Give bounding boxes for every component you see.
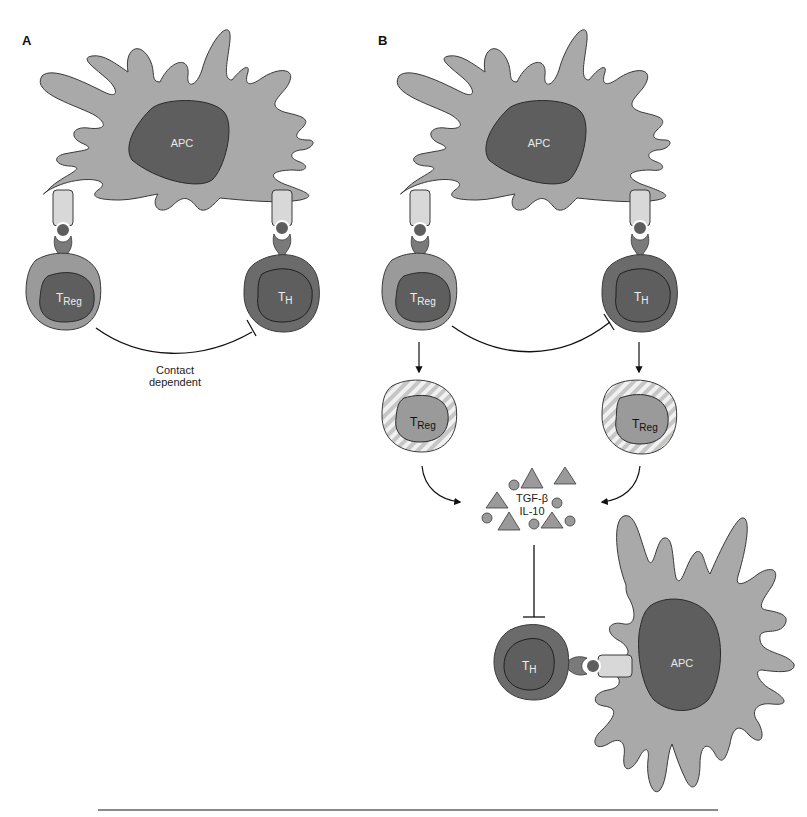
apc-label-b: APC xyxy=(528,137,551,149)
figure-canvas: A APC TReg TH xyxy=(0,0,807,817)
contact-label-line1: Contact xyxy=(156,364,194,376)
apc-cell-a: APC xyxy=(40,30,313,210)
activated-treg-cell-right: TReg xyxy=(602,380,677,454)
cytokine-label-tgf-beta: TGF-β xyxy=(516,492,548,504)
apc-label-a: APC xyxy=(171,137,194,149)
panel-label-b: B xyxy=(378,33,387,48)
panel-a: A APC TReg TH xyxy=(22,30,319,388)
treg-cell-b: TReg xyxy=(382,253,457,330)
th-cell-b: TH xyxy=(602,255,677,332)
cytokine-label-il10: IL-10 xyxy=(519,505,544,517)
th-cell-a: TH xyxy=(244,255,319,332)
inhibition-arc-a xyxy=(96,328,252,353)
panel-label-a: A xyxy=(22,33,32,48)
apc-cell-bottom: APC xyxy=(595,516,794,792)
arrow-secretion-left xyxy=(422,466,460,502)
th-cell-bottom: TH xyxy=(494,625,569,700)
treg-cell-a: TReg xyxy=(26,253,101,330)
arrow-secretion-right xyxy=(602,466,640,502)
activated-treg-cell-left: TReg xyxy=(382,380,457,452)
apc-label-bottom: APC xyxy=(671,657,694,669)
inhibition-arc-b xyxy=(452,322,610,352)
contact-label-line2: dependent xyxy=(149,376,201,388)
apc-cell-b: APC xyxy=(397,30,670,210)
panel-b: B APC TReg TH xyxy=(378,30,794,792)
